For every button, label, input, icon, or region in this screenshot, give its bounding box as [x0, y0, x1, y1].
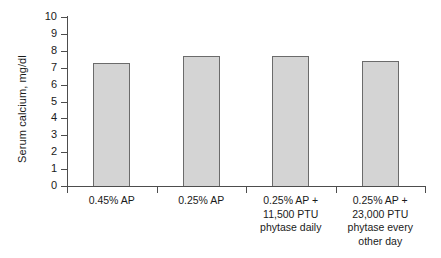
- y-tick-label: 1: [51, 162, 57, 175]
- x-tick: [246, 187, 247, 193]
- y-tick-label: 10: [45, 10, 57, 23]
- y-tick-label: 3: [51, 128, 57, 141]
- y-axis-title: Serum calcium, mg/dl: [15, 24, 29, 194]
- y-tick-label: 5: [51, 95, 57, 108]
- y-tick-label: 0: [51, 179, 57, 192]
- bars-layer: [67, 17, 425, 186]
- y-tick-label: 7: [51, 61, 57, 74]
- x-tick: [425, 187, 426, 193]
- y-tick-label: 2: [51, 145, 57, 158]
- x-axis-label: 0.45% AP: [61, 194, 163, 208]
- bar-chart: Serum calcium, mg/dl 109876543210 0.45% …: [0, 0, 441, 258]
- x-axis-label: 0.25% AP: [151, 194, 253, 208]
- x-axis-label: 0.25% AP + 11,500 PTU phytase daily: [240, 194, 342, 235]
- y-tick-label: 6: [51, 78, 57, 91]
- y-tick-label: 4: [51, 111, 57, 124]
- bar: [272, 56, 309, 186]
- x-tick: [336, 187, 337, 193]
- bar: [362, 61, 399, 186]
- x-axis-label: 0.25% AP + 23,000 PTU phytase every othe…: [330, 194, 432, 248]
- x-axis-labels: 0.45% AP0.25% AP0.25% AP + 11,500 PTU ph…: [67, 194, 426, 256]
- x-tick: [67, 187, 68, 193]
- y-tick-label: 9: [51, 27, 57, 40]
- y-tick-label: 8: [51, 44, 57, 57]
- x-tick: [157, 187, 158, 193]
- bar: [183, 56, 220, 186]
- bar: [93, 63, 130, 186]
